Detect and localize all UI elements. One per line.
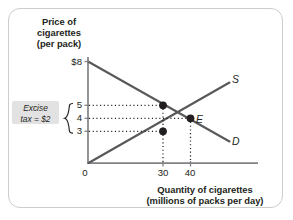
equilibrium-point-label: E xyxy=(196,114,203,126)
x-tick-label-40: 40 xyxy=(179,167,201,178)
y-axis-title: Price ofcigarettes(per pack) xyxy=(28,16,90,49)
y-tick-label-3: 3 xyxy=(68,125,82,136)
excise-tax-label-line1: Excise xyxy=(23,103,48,113)
y-axis-title-line2: cigarettes xyxy=(37,27,81,38)
excise-tax-label-line2: tax = $2 xyxy=(20,114,50,124)
x-axis-title: Quantity of cigarettes(millions of packs… xyxy=(122,184,288,206)
point-equilibrium-E xyxy=(187,114,195,122)
x-tick-label-0: 0 xyxy=(78,167,92,178)
excise-tax-label: Excisetax = $2 xyxy=(12,103,59,125)
y-tick-label-4: 4 xyxy=(68,112,82,123)
demand-curve-label: D xyxy=(232,136,240,148)
y-tick-label-8: $8 xyxy=(62,56,82,67)
supply-curve-label: S xyxy=(232,74,239,86)
supply-curve xyxy=(89,83,230,164)
y-axis-title-line1: Price of xyxy=(42,16,76,27)
point-producer-price xyxy=(159,127,167,135)
x-axis-title-line2: (millions of packs per day) xyxy=(147,195,264,206)
demand-curve xyxy=(88,62,230,142)
x-axis-title-line1: Quantity of cigarettes xyxy=(157,184,252,195)
y-tick-label-5: 5 xyxy=(68,99,82,110)
point-consumer-price xyxy=(159,101,167,109)
figure-container: Excisetax = $2 Price ofcigarettes(per pa… xyxy=(0,0,293,220)
x-tick-label-30: 30 xyxy=(152,167,174,178)
y-axis-title-line3: (per pack) xyxy=(37,38,81,49)
